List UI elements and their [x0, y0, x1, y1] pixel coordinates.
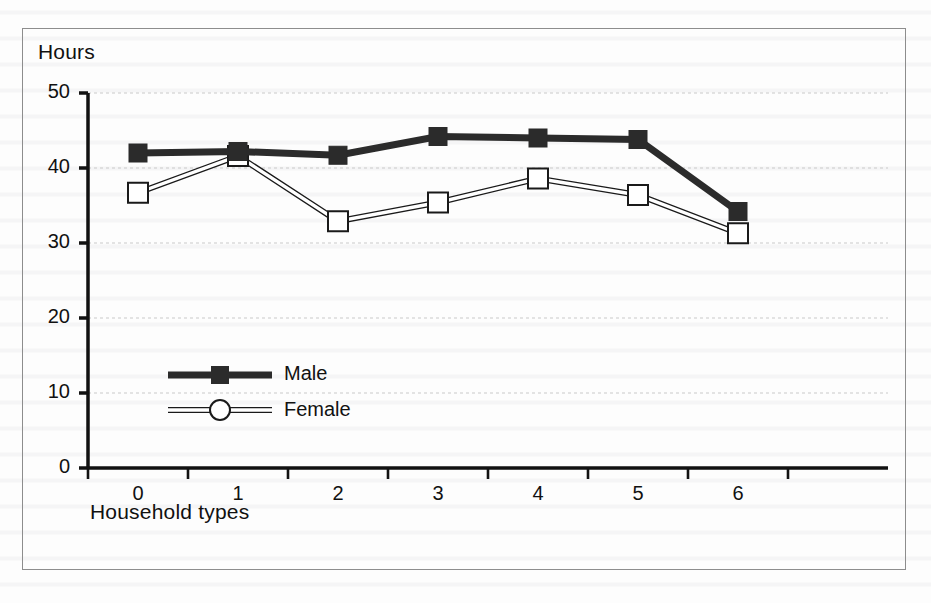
y-tick-label: 0	[30, 455, 70, 478]
legend-label-female: Female	[284, 398, 351, 421]
y-tick-label: 30	[30, 230, 70, 253]
plot-area	[0, 0, 931, 603]
legend-label-male: Male	[284, 362, 327, 385]
x-tick-label: 3	[413, 482, 463, 505]
y-tick-label: 20	[30, 305, 70, 328]
x-tick-label: 4	[513, 482, 563, 505]
y-tick-label: 10	[30, 380, 70, 403]
x-tick-label: 6	[713, 482, 763, 505]
chart-figure: Hours Household types 010203040500123456…	[0, 0, 931, 603]
x-tick-label: 1	[213, 482, 263, 505]
y-tick-label: 50	[30, 80, 70, 103]
y-tick-label: 40	[30, 155, 70, 178]
x-tick-label: 2	[313, 482, 363, 505]
series-female-line	[128, 146, 748, 243]
x-tick-label: 5	[613, 482, 663, 505]
x-tick-label: 0	[113, 482, 163, 505]
